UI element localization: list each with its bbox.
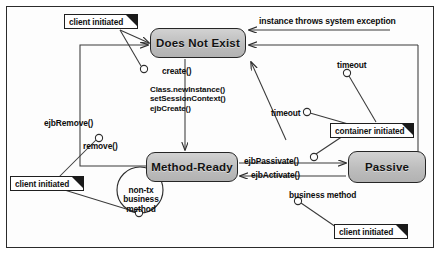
edge-timeout-upper-leader [349,76,376,122]
state-diagram-page: Does Not Exist Method-Ready Passive clie… [0,0,442,256]
note-fold-icon [71,176,84,202]
endpoint-timeout-upper [343,69,350,76]
label-create-actions: Class.newInstance() setSessionContext() … [150,85,230,113]
endpoint-container-initiated [310,153,317,160]
label-non-tx-business-method: non-tx business method [119,186,163,214]
note-fold-icon [125,14,138,40]
label-create-action-line: setSessionContext() [150,94,230,103]
note-client-initiated-right[interactable]: client initiated [334,224,408,239]
state-passive[interactable]: Passive [348,151,426,183]
endpoint-timeout-lower [303,108,310,115]
note-label: container initiated [335,126,405,136]
note-container-initiated[interactable]: container initiated [330,123,414,138]
label-business-method: business method [289,190,356,200]
note-label: client initiated [339,227,393,237]
note-label: client initiated [15,179,69,189]
note-client-initiated-top[interactable]: client initiated [64,14,138,29]
label-ejb-activate: ejbActivate() [251,170,300,180]
state-does-not-exist[interactable]: Does Not Exist [150,28,246,58]
label-timeout-lower: timeout [271,108,301,118]
label-system-exception: instance throws system exception [259,16,396,26]
label-create: create() [162,66,191,76]
label-non-tx-line: method [119,205,163,214]
label-create-action-line: ejbCreate() [150,104,230,113]
label-create-action-line: Class.newInstance() [150,85,230,94]
label-timeout-upper: timeout [337,60,367,70]
note-client-initiated-left[interactable]: client initiated [10,176,84,191]
edge-business-method-leader [301,203,336,227]
label-ejb-passivate: ejbPassivate() [244,156,299,166]
note-fold-icon [395,224,408,250]
label-remove: remove() [83,141,118,151]
note-fold-icon [401,123,414,149]
state-method-ready[interactable]: Method-Ready [146,152,238,182]
endpoint-create [140,65,147,72]
note-label: client initiated [69,17,123,27]
edge-timeout-to-dne [251,62,286,140]
label-ejb-remove: ejbRemove() [44,118,93,128]
